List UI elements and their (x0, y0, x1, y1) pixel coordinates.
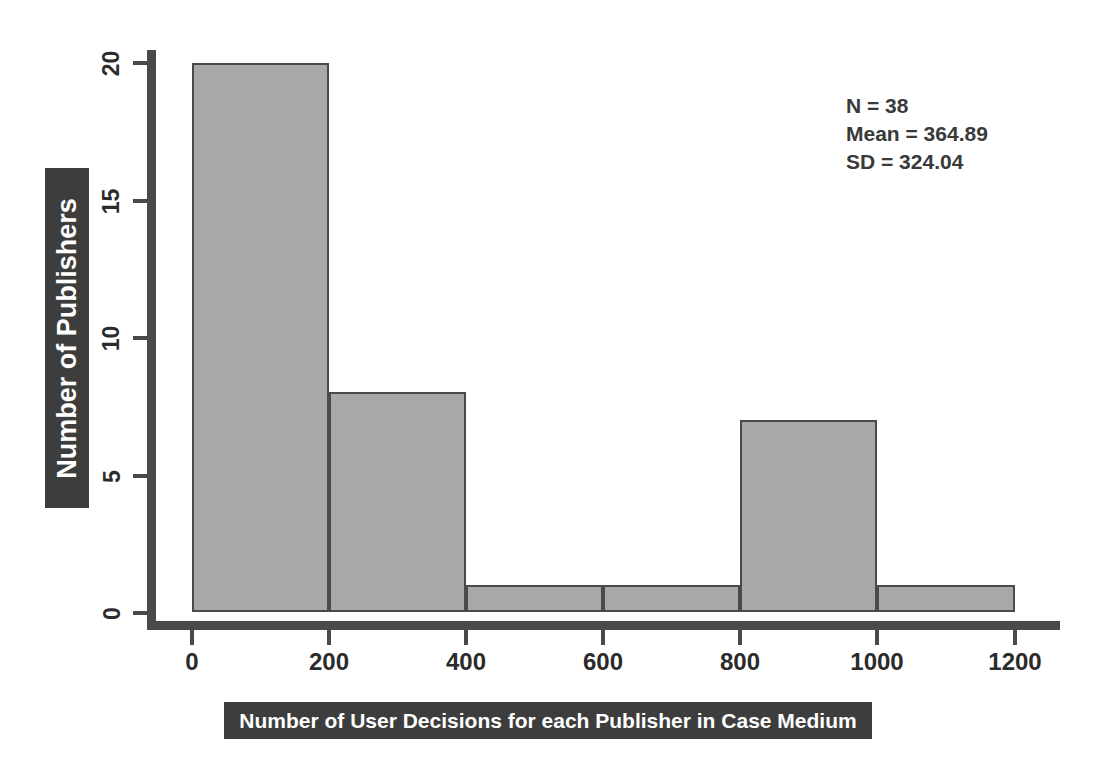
y-axis-tick-label-20: 20 (95, 53, 129, 73)
y-axis-tick-label-5: 5 (95, 466, 129, 486)
histogram-bar-200-400 (329, 392, 466, 612)
y-axis-tick-label-15: 15 (95, 191, 129, 211)
histogram-bar-600-800 (603, 585, 740, 612)
histogram-bar-1000-1200 (877, 585, 1015, 612)
x-axis-tick-label-800: 800 (680, 648, 800, 676)
x-axis-title-banner: Number of User Decisions for each Publis… (224, 702, 872, 739)
stats-n: N = 38 (846, 92, 988, 120)
y-axis-tick-label-text: 0 (98, 607, 125, 620)
y-axis-title: Number of Publishers (52, 198, 83, 479)
y-axis-tick-15 (133, 199, 147, 203)
y-axis-tick-20 (133, 61, 147, 65)
histogram-bar-0-200 (192, 63, 329, 612)
x-axis-tick-label-1200: 1200 (955, 648, 1075, 676)
x-axis-tick-0 (190, 630, 194, 645)
histogram-bar-400-600 (466, 585, 603, 612)
y-axis-tick-label-text: 20 (99, 50, 126, 76)
x-axis-tick-1000 (875, 630, 879, 645)
y-axis-tick-label-text: 15 (99, 188, 126, 214)
x-axis-tick-label-1000: 1000 (817, 648, 937, 676)
y-axis-tick-label-text: 5 (98, 470, 125, 483)
y-axis-tick-0 (133, 611, 147, 615)
x-axis-tick-label-600: 600 (543, 648, 663, 676)
histogram-bar-800-1000 (740, 420, 877, 612)
stats-annotation: N = 38 Mean = 364.89 SD = 324.04 (846, 92, 988, 176)
x-axis-tick-600 (601, 630, 605, 645)
y-axis-tick-label-10: 10 (95, 328, 129, 348)
histogram-figure: Number of Publishers 20 15 10 5 0 0 200 … (0, 0, 1098, 777)
y-axis-title-banner: Number of Publishers (45, 168, 89, 508)
x-axis-title: Number of User Decisions for each Publis… (239, 709, 856, 733)
x-axis-tick-200 (327, 630, 331, 645)
y-axis-tick-label-text: 10 (99, 325, 126, 351)
x-axis-tick-label-0: 0 (132, 648, 252, 676)
x-axis-tick-label-400: 400 (406, 648, 526, 676)
x-axis-tick-800 (738, 630, 742, 645)
x-axis-tick-400 (464, 630, 468, 645)
x-axis-line (147, 621, 1060, 630)
y-axis-line (147, 50, 156, 630)
x-axis-tick-label-200: 200 (269, 648, 389, 676)
stats-sd: SD = 324.04 (846, 148, 988, 176)
y-axis-tick-5 (133, 474, 147, 478)
y-axis-tick-label-0: 0 (95, 603, 129, 623)
x-axis-tick-1200 (1013, 630, 1017, 645)
y-axis-tick-10 (133, 336, 147, 340)
stats-mean: Mean = 364.89 (846, 120, 988, 148)
